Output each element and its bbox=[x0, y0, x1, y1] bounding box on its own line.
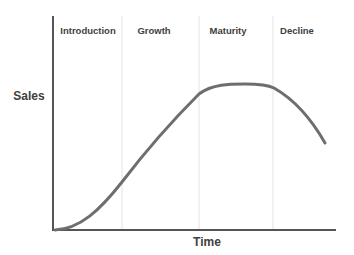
y-axis-label: Sales bbox=[13, 89, 45, 103]
sales-curve bbox=[55, 84, 325, 230]
stage-label-maturity: Maturity bbox=[210, 25, 248, 36]
stage-label-decline: Decline bbox=[280, 25, 314, 36]
stage-label-introduction: Introduction bbox=[60, 25, 116, 36]
stage-label-growth: Growth bbox=[137, 25, 170, 36]
product-life-cycle-chart: Introduction Growth Maturity Decline Sal… bbox=[0, 0, 354, 255]
x-axis-label: Time bbox=[193, 235, 221, 249]
